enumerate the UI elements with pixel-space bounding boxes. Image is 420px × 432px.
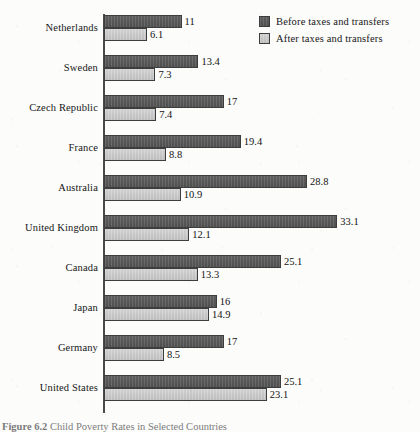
category-label: Netherlands: [0, 21, 98, 35]
bar-before: [104, 255, 281, 268]
bar-pair: 1614.9: [104, 295, 420, 322]
bar-after: [104, 268, 198, 281]
bar-pair: 33.112.1: [104, 215, 420, 242]
bar-group: Czech Republic177.4: [0, 95, 420, 122]
category-label: United Kingdom: [0, 221, 98, 235]
bar-before: [104, 175, 307, 188]
category-label: Canada: [0, 261, 98, 275]
bar-pair: 25.123.1: [104, 375, 420, 402]
legend-swatch-after: [259, 33, 270, 44]
bar-value-label: 7.3: [155, 68, 171, 81]
bar-value-label: 17: [224, 335, 238, 348]
bar-value-label: 16: [217, 295, 231, 308]
bar-value-label: 25.1: [281, 255, 302, 268]
bar-group: Australia28.810.9: [0, 175, 420, 202]
bar-after: [104, 108, 156, 121]
bar-after: [104, 348, 164, 361]
bar-before: [104, 135, 241, 148]
bar-before: [104, 15, 182, 28]
bar-group: Germany178.5: [0, 335, 420, 362]
chart-plot-area: Netherlands116.1Sweden13.47.3Czech Repub…: [0, 0, 420, 415]
bar-after: [104, 28, 147, 41]
legend-label: After taxes and transfers: [276, 31, 383, 46]
category-label: Japan: [0, 301, 98, 315]
bar-after: [104, 228, 189, 241]
chart-legend: Before taxes and transfersAfter taxes an…: [259, 14, 419, 48]
category-label: Germany: [0, 341, 98, 355]
bar-before: [104, 375, 281, 388]
bar-pair: 178.5: [104, 335, 420, 362]
bar-pair: 28.810.9: [104, 175, 420, 202]
bar-value-label: 6.1: [147, 28, 163, 41]
legend-item: Before taxes and transfers: [259, 14, 419, 29]
bar-value-label: 14.9: [209, 308, 230, 321]
bar-before: [104, 335, 224, 348]
bar-after: [104, 388, 267, 401]
bar-value-label: 10.9: [181, 188, 202, 201]
bar-value-label: 23.1: [267, 388, 288, 401]
bar-group: France19.48.8: [0, 135, 420, 162]
bar-value-label: 13.3: [198, 268, 219, 281]
bar-group: Sweden13.47.3: [0, 55, 420, 82]
bar-value-label: 13.4: [198, 55, 219, 68]
bar-group: United States25.123.1: [0, 375, 420, 402]
bar-before: [104, 295, 217, 308]
bar-value-label: 33.1: [337, 215, 358, 228]
bar-value-label: 28.8: [307, 175, 328, 188]
category-label: Sweden: [0, 61, 98, 75]
bar-pair: 177.4: [104, 95, 420, 122]
figure-caption: Figure 6.2 Child Poverty Rates in Select…: [2, 420, 302, 432]
bar-group: Japan1614.9: [0, 295, 420, 322]
bar-pair: 13.47.3: [104, 55, 420, 82]
bar-after: [104, 68, 155, 81]
bar-pair: 19.48.8: [104, 135, 420, 162]
bar-value-label: 12.1: [189, 228, 210, 241]
legend-swatch-before: [259, 16, 270, 27]
bar-value-label: 8.5: [164, 348, 180, 361]
figure-caption-number: Figure 6.2: [2, 421, 47, 432]
bar-value-label: 19.4: [241, 135, 262, 148]
figure-page: Netherlands116.1Sweden13.47.3Czech Repub…: [0, 0, 420, 432]
category-label: Czech Republic: [0, 101, 98, 115]
bar-value-label: 7.4: [156, 108, 172, 121]
bar-value-label: 8.8: [166, 148, 182, 161]
bar-before: [104, 95, 224, 108]
bar-group: Canada25.113.3: [0, 255, 420, 282]
bar-after: [104, 188, 181, 201]
bar-before: [104, 55, 198, 68]
bar-after: [104, 308, 209, 321]
bar-before: [104, 215, 337, 228]
bar-value-label: 25.1: [281, 375, 302, 388]
bar-after: [104, 148, 166, 161]
legend-label: Before taxes and transfers: [276, 14, 389, 29]
bar-pair: 25.113.3: [104, 255, 420, 282]
legend-item: After taxes and transfers: [259, 31, 419, 46]
category-label: Australia: [0, 181, 98, 195]
figure-caption-text: Child Poverty Rates in Selected Countrie…: [50, 421, 227, 432]
bar-value-label: 17: [224, 95, 238, 108]
bar-value-label: 11: [182, 15, 195, 28]
bar-group: United Kingdom33.112.1: [0, 215, 420, 242]
category-label: United States: [0, 381, 98, 395]
category-label: France: [0, 141, 98, 155]
